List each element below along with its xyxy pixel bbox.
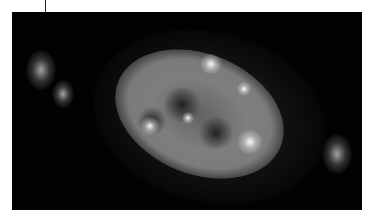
outer-lobe-left (26, 50, 56, 90)
nebula-image (12, 12, 362, 210)
bright-knot (237, 82, 251, 96)
bright-knot (237, 130, 263, 154)
outer-lobe-left (52, 80, 74, 108)
outer-lobe-right (322, 134, 352, 174)
nebula-cavity (197, 117, 235, 149)
bright-knot (140, 117, 160, 135)
bright-knot (182, 112, 194, 124)
bright-knot (200, 54, 222, 74)
